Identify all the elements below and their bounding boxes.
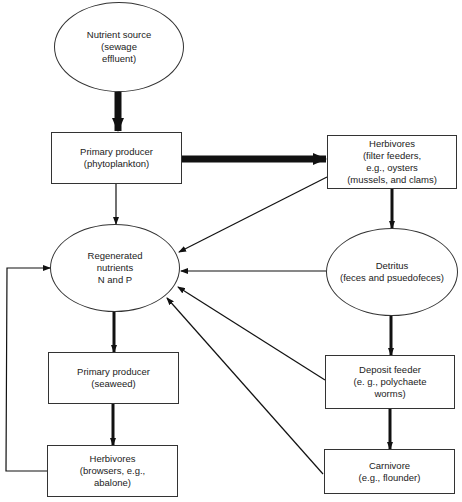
node-label: Primary producer (80, 146, 153, 158)
node-nutrient-source: Nutrient source (sewage effluent) (54, 2, 184, 92)
node-label: Primary producer (77, 366, 150, 378)
node-herbivores-filter-feeders: Herbivores (filter feeders, e.g., oyster… (327, 135, 457, 189)
node-carnivore: Carnivore (e.g., flounder) (324, 449, 455, 494)
node-label: effluent) (102, 53, 136, 65)
node-regenerated-nutrients: Regenerated nutrients N and P (50, 224, 180, 312)
node-deposit-feeder: Deposit feeder (e. g., polychaete worms) (325, 355, 455, 409)
node-label: nutrients (97, 262, 133, 274)
node-detritus: Detritus (feces and psuedofeces) (326, 228, 458, 316)
node-label: (mussels, and clams) (347, 174, 437, 186)
node-label: (seaweed) (91, 378, 135, 390)
arrow-carnivore-to-regenerated (167, 298, 323, 474)
node-label: (e.g., flounder) (359, 472, 421, 484)
arrow-herbivores-to-regenerated (179, 177, 327, 252)
node-label: e.g., oysters (366, 162, 418, 174)
node-label: Herbivores (90, 453, 136, 465)
node-label: (phytoplankton) (84, 158, 149, 170)
node-herbivores-browsers: Herbivores (browsers, e.g., abalone) (47, 445, 178, 497)
arrow-deposit-to-regenerated (178, 287, 325, 380)
node-label: Detritus (376, 260, 409, 272)
node-label: (sewage (101, 41, 137, 53)
node-label: (filter feeders, (363, 150, 421, 162)
node-label: N and P (98, 274, 132, 286)
node-label: worms) (374, 388, 405, 400)
node-primary-producer-seaweed: Primary producer (seaweed) (48, 352, 179, 404)
node-label: Carnivore (369, 460, 410, 472)
node-label: Nutrient source (87, 29, 151, 41)
node-label: (e. g., polychaete (354, 376, 427, 388)
node-primary-producer-phytoplankton: Primary producer (phytoplankton) (51, 132, 182, 184)
node-label: (browsers, e.g., (80, 465, 145, 477)
node-label: (feces and psuedofeces) (340, 272, 444, 284)
node-label: abalone) (94, 477, 131, 489)
arrow-browsers-to-regenerated (6, 268, 50, 471)
node-label: Regenerated (88, 250, 143, 262)
node-label: Herbivores (369, 138, 415, 150)
node-label: Deposit feeder (359, 364, 421, 376)
